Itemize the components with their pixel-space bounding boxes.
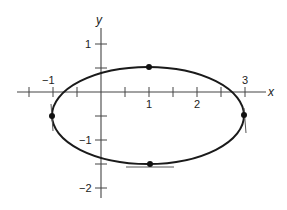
point-right — [241, 112, 247, 118]
y-tick-label-neg1: −1 — [79, 134, 92, 146]
diagram-canvas: x −1 1 2 3 y 1 −1 −2 — [0, 0, 287, 210]
marked-points — [49, 64, 247, 167]
x-axis-label: x — [267, 85, 275, 99]
y-axis: y 1 −1 −2 — [79, 13, 107, 198]
point-bottom — [147, 161, 153, 167]
point-top — [146, 64, 152, 70]
point-left — [49, 113, 55, 119]
ellipse-curve — [52, 67, 244, 164]
x-tick-label-2: 2 — [194, 98, 200, 110]
x-axis: x −1 1 2 3 — [17, 74, 275, 110]
x-tick-label-neg1: −1 — [42, 74, 55, 86]
y-tick-label-1: 1 — [85, 38, 91, 50]
x-tick-label-1: 1 — [146, 98, 152, 110]
y-tick-label-neg2: −2 — [79, 182, 92, 194]
y-axis-label: y — [95, 13, 103, 27]
ellipse-diagram: x −1 1 2 3 y 1 −1 −2 — [0, 0, 287, 210]
x-tick-label-3: 3 — [242, 74, 248, 86]
